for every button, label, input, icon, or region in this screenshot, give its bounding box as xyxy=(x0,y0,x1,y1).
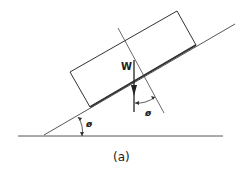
inclined-plane-diagram: W ø ø (a) xyxy=(0,0,245,173)
arc-arrowhead-icon xyxy=(80,132,84,136)
arc-arrowhead-icon xyxy=(78,117,82,121)
normal-angle-label: ø xyxy=(144,108,152,118)
incline-line xyxy=(44,24,235,135)
incline-angle-label: ø xyxy=(85,119,93,129)
block xyxy=(70,11,196,107)
arc-arrowhead-icon xyxy=(135,101,139,105)
weight-label: W xyxy=(121,61,132,72)
caption: (a) xyxy=(113,150,130,164)
weight-arrowhead-icon xyxy=(131,85,137,96)
